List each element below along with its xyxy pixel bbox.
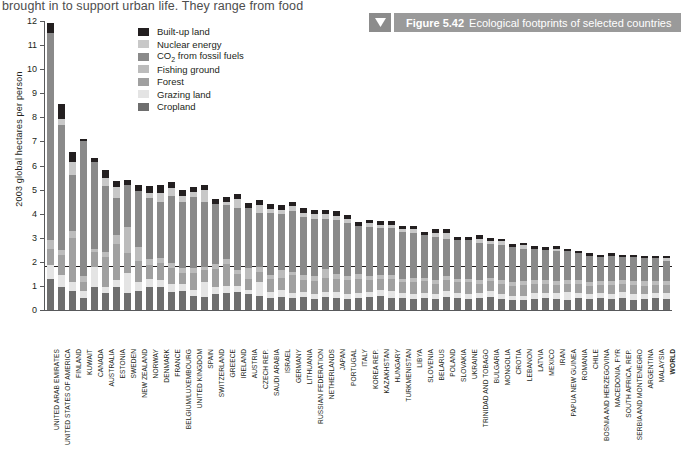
bar-segment — [58, 287, 66, 310]
bar-column[interactable] — [276, 21, 287, 310]
bar-segment — [245, 208, 253, 268]
bar-segment — [608, 256, 616, 281]
bar-column[interactable] — [606, 21, 617, 310]
bar-segment — [432, 237, 440, 280]
bar-segment — [443, 280, 451, 291]
bar-column[interactable] — [474, 21, 485, 310]
y-tick-label: 4 — [32, 209, 37, 219]
bar-column[interactable] — [595, 21, 606, 310]
bar-segment — [157, 287, 165, 310]
bar-column[interactable] — [430, 21, 441, 310]
bar-column[interactable] — [254, 21, 265, 310]
bar-segment — [168, 284, 176, 292]
y-tick-label: 5 — [32, 185, 37, 195]
bar-column[interactable] — [419, 21, 430, 310]
bar-segment — [201, 270, 209, 282]
bar-segment — [509, 300, 517, 310]
bar-column[interactable] — [122, 21, 133, 310]
bar-segment — [410, 282, 418, 294]
bar-segment — [102, 170, 110, 177]
bar-column[interactable] — [67, 21, 78, 310]
legend-label: Fishing ground — [157, 64, 220, 75]
stacked-bar — [399, 226, 407, 310]
stacked-bar — [355, 222, 363, 310]
x-label-column: FINLAND — [66, 349, 77, 449]
bar-column[interactable] — [353, 21, 364, 310]
x-label-column: SWEDEN — [121, 349, 132, 449]
bar-column[interactable] — [243, 21, 254, 310]
legend-label: Built-up land — [157, 26, 210, 37]
bar-column[interactable] — [397, 21, 408, 310]
stacked-bar — [102, 170, 110, 310]
bar-column[interactable] — [650, 21, 661, 310]
x-label-column: IRELAND — [231, 349, 242, 449]
bar-column[interactable] — [573, 21, 584, 310]
bar-column[interactable] — [386, 21, 397, 310]
bar-column[interactable] — [463, 21, 474, 310]
stacked-bar — [58, 104, 66, 310]
x-label-column: ARGENTINA — [639, 349, 650, 449]
bar-column[interactable] — [265, 21, 276, 310]
bar-column[interactable] — [45, 21, 56, 310]
bar-segment — [69, 291, 77, 310]
bar-column[interactable] — [364, 21, 375, 310]
bar-column[interactable] — [628, 21, 639, 310]
bar-column[interactable] — [617, 21, 628, 310]
bar-segment — [168, 196, 176, 263]
bar-column[interactable] — [540, 21, 551, 310]
bar-column[interactable] — [111, 21, 122, 310]
bar-column[interactable] — [518, 21, 529, 310]
bar-segment — [652, 285, 660, 293]
bar-column[interactable] — [331, 21, 342, 310]
bar-column[interactable] — [452, 21, 463, 310]
bar-column[interactable] — [78, 21, 89, 310]
bar-column[interactable] — [529, 21, 540, 310]
y-tick-label: 10 — [27, 64, 37, 74]
bar-column[interactable] — [507, 21, 518, 310]
bar-column[interactable] — [639, 21, 650, 310]
bar-segment — [69, 175, 77, 230]
bar-segment — [179, 273, 187, 284]
bar-column[interactable] — [56, 21, 67, 310]
y-tick-label: 7 — [32, 136, 37, 146]
bar-segment — [278, 290, 286, 297]
bar-column[interactable] — [661, 21, 672, 310]
bar-segment — [212, 204, 220, 264]
bar-column[interactable] — [584, 21, 595, 310]
bar-segment — [113, 244, 121, 280]
bar-segment — [289, 298, 297, 310]
bar-column[interactable] — [441, 21, 452, 310]
bar-column[interactable] — [287, 21, 298, 310]
stacked-bar — [377, 221, 385, 310]
bar-segment — [146, 186, 154, 193]
bar-segment — [509, 286, 517, 296]
stacked-bar — [553, 246, 561, 310]
stacked-bar — [630, 255, 638, 310]
bar-column[interactable] — [485, 21, 496, 310]
x-label-column: AUSTRALIA — [99, 349, 110, 449]
bar-column[interactable] — [342, 21, 353, 310]
x-label-column: ROMANIA — [573, 349, 584, 449]
bar-segment — [553, 251, 561, 281]
bar-column[interactable] — [320, 21, 331, 310]
bar-column[interactable] — [408, 21, 419, 310]
bar-column[interactable] — [89, 21, 100, 310]
bar-column[interactable] — [298, 21, 309, 310]
bar-column[interactable] — [496, 21, 507, 310]
bar-column[interactable] — [309, 21, 320, 310]
bar-segment — [256, 205, 264, 212]
y-axis-title: 2003 global hectares per person — [14, 24, 24, 254]
bar-column[interactable] — [375, 21, 386, 310]
x-label-column: SLOVENIA — [419, 349, 430, 449]
x-label-column: SERBIA AND MONTENEGRO — [628, 349, 639, 449]
x-label-column: BULGARIA — [485, 349, 496, 449]
bar-segment — [520, 249, 528, 282]
bar-column[interactable] — [100, 21, 111, 310]
bar-segment — [124, 273, 132, 293]
stacked-bar — [575, 251, 583, 310]
bar-segment — [388, 279, 396, 291]
bar-column[interactable] — [551, 21, 562, 310]
bar-segment — [47, 33, 55, 240]
bar-segment — [520, 285, 528, 296]
bar-column[interactable] — [562, 21, 573, 310]
